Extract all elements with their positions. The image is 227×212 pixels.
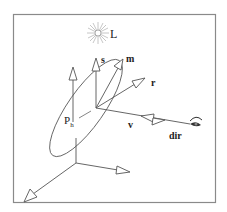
diagram-frame: [14, 15, 216, 203]
point-ph-sub: h: [70, 121, 74, 129]
eye-icon: [190, 117, 202, 126]
s-vector-arrow: [92, 58, 100, 108]
r-vector-arrow: [96, 78, 145, 108]
ph-leader-line: [79, 111, 91, 118]
left-normal-arrow: [69, 67, 77, 122]
s-label: s: [101, 54, 105, 65]
v-direction-arrows: [141, 114, 165, 125]
shading-geometry-diagram: L s m r v dir Ph: [0, 0, 227, 212]
sun-light-icon: [87, 22, 109, 44]
coordinate-axes: [24, 138, 130, 202]
r-label: r: [151, 77, 156, 88]
v-label: v: [128, 119, 133, 130]
m-label: m: [126, 53, 135, 64]
light-label: L: [110, 27, 117, 41]
dir-label: dir: [169, 130, 182, 141]
